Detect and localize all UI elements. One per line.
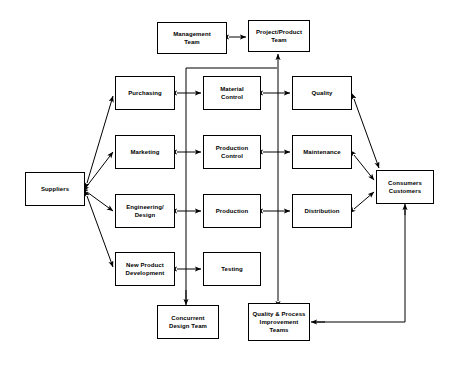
- node-material-control[interactable]: Material Control: [203, 76, 261, 110]
- node-engineering-design[interactable]: Engineering/ Design: [115, 194, 175, 228]
- connector-distribution-to-consumers: [354, 192, 374, 209]
- node-label-marketing: Marketing: [129, 148, 160, 156]
- node-purchasing[interactable]: Purchasing: [115, 76, 175, 110]
- node-label-purchasing: Purchasing: [127, 89, 163, 97]
- node-production-control[interactable]: Production Control: [203, 135, 261, 169]
- node-testing[interactable]: Testing: [203, 252, 261, 286]
- node-management-team[interactable]: Management Team: [157, 22, 227, 54]
- node-consumers-customers[interactable]: Consumers Customers: [376, 170, 434, 204]
- node-label-project-product-team: Project/Product Team: [255, 28, 303, 44]
- node-label-production-control: Production Control: [215, 144, 250, 160]
- node-label-quality-process-teams: Quality & Process Improvement Teams: [251, 310, 306, 334]
- node-label-maintenance: Maintenance: [302, 148, 341, 156]
- node-label-distribution: Distribution: [304, 207, 341, 215]
- connector-maintenance-to-consumers: [354, 155, 374, 180]
- node-label-engineering-design: Engineering/ Design: [125, 203, 165, 219]
- node-label-consumers-customers: Consumers Customers: [387, 179, 423, 195]
- node-label-production: Production: [215, 207, 250, 215]
- node-marketing[interactable]: Marketing: [115, 135, 175, 169]
- node-new-product-development[interactable]: New Product Development: [115, 252, 175, 286]
- connector-suppliers-to-engineering: [87, 192, 113, 211]
- node-label-concurrent-design-team: Concurrent Design Team: [168, 314, 208, 330]
- connector-suppliers-to-purchasing: [87, 96, 113, 183]
- node-label-new-product-development: New Product Development: [125, 261, 166, 277]
- node-suppliers[interactable]: Suppliers: [25, 172, 85, 206]
- node-concurrent-design-team[interactable]: Concurrent Design Team: [157, 305, 219, 339]
- diagram-canvas: Management Team Project/Product Team Pur…: [0, 0, 454, 368]
- node-label-quality: Quality: [310, 89, 333, 97]
- node-distribution[interactable]: Distribution: [292, 194, 352, 228]
- node-quality[interactable]: Quality: [292, 76, 352, 110]
- node-label-management-team: Management Team: [172, 30, 212, 46]
- connector-suppliers-to-npd: [87, 196, 113, 267]
- node-label-suppliers: Suppliers: [40, 185, 70, 193]
- node-project-product-team[interactable]: Project/Product Team: [248, 20, 310, 52]
- node-maintenance[interactable]: Maintenance: [292, 135, 352, 169]
- node-label-material-control: Material Control: [219, 85, 244, 101]
- connector-quality-to-consumers: [354, 99, 379, 168]
- node-quality-process-teams[interactable]: Quality & Process Improvement Teams: [248, 303, 310, 341]
- node-label-testing: Testing: [220, 265, 244, 273]
- node-production[interactable]: Production: [203, 194, 261, 228]
